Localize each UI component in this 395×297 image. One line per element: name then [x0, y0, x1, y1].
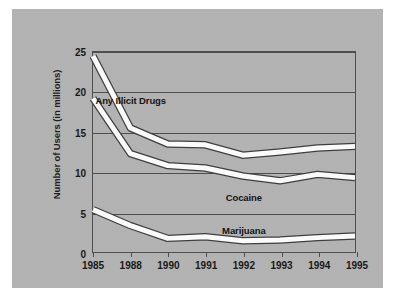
y-tick-label: 10	[75, 168, 86, 179]
x-tick-mark	[319, 252, 320, 257]
y-tick-label: 5	[80, 208, 86, 219]
series-label-marijuana: Marijuana	[222, 224, 265, 235]
y-tick-label: 25	[75, 47, 86, 58]
series-label-any-illicit-drugs: Any Illicit Drugs	[95, 95, 166, 106]
x-tick-label: 1993	[270, 260, 292, 271]
y-axis-title: Number of Users (in millions)	[51, 45, 62, 225]
y-tick-label: 20	[75, 87, 86, 98]
x-tick-mark	[206, 252, 207, 257]
x-tick-label: 1990	[157, 260, 179, 271]
x-tick-mark	[244, 252, 245, 257]
x-tick-label: 1992	[233, 260, 255, 271]
x-tick-mark	[357, 252, 358, 257]
x-tick-label: 1988	[120, 260, 142, 271]
x-tick-mark	[93, 252, 94, 257]
series-label-cocaine: Cocaine	[226, 192, 262, 203]
chart-plate: Number of Users (in millions) 0510152025…	[12, 9, 383, 288]
y-tick-label: 0	[80, 249, 86, 260]
y-tick-label: 15	[75, 127, 86, 138]
x-tick-mark	[282, 252, 283, 257]
x-tick-label: 1995	[346, 260, 368, 271]
x-tick-mark	[168, 252, 169, 257]
x-tick-label: 1994	[308, 260, 330, 271]
x-tick-label: 1985	[82, 260, 104, 271]
plot-area: 0510152025 19851988199019911992199319941…	[92, 51, 356, 253]
x-tick-label: 1991	[195, 260, 217, 271]
chart-screenshot: Number of Users (in millions) 0510152025…	[0, 0, 395, 297]
series-lines-group	[93, 52, 355, 252]
x-tick-mark	[131, 252, 132, 257]
series-line-outline	[93, 98, 355, 180]
